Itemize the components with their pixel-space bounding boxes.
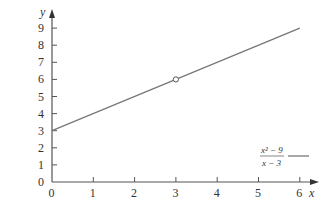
y-tick-label: 2 [38, 141, 44, 155]
legend-numerator: x² − 9 [260, 145, 283, 155]
x-tick-label: 0 [49, 186, 55, 200]
y-tick-label: 8 [38, 38, 44, 52]
x-tick-label: 6 [296, 186, 302, 200]
y-tick-label: 4 [38, 107, 44, 121]
function-plot: 0123456789 0123456 y x x² − 9 x − 3 [0, 0, 329, 213]
y-axis-label: y [39, 5, 46, 19]
y-tick-label: 7 [38, 55, 44, 69]
x-tick-label: 4 [214, 186, 220, 200]
legend: x² − 9 x − 3 [260, 145, 309, 168]
y-axis-arrow-icon [49, 9, 55, 18]
y-tick-label: 0 [38, 175, 44, 189]
y-ticks: 0123456789 [38, 21, 57, 189]
open-circle-hole-marker [173, 77, 178, 82]
x-axis-arrow-icon [310, 179, 319, 185]
x-axis-label: x [308, 186, 315, 200]
y-tick-label: 9 [38, 21, 44, 35]
x-ticks: 0123456 [49, 177, 303, 200]
y-tick-label: 5 [38, 90, 44, 104]
x-tick-label: 1 [90, 186, 96, 200]
x-tick-label: 2 [131, 186, 137, 200]
x-tick-label: 5 [255, 186, 261, 200]
legend-denominator: x − 3 [261, 158, 282, 168]
y-tick-label: 6 [38, 72, 44, 86]
y-tick-label: 1 [38, 158, 44, 172]
x-tick-label: 3 [172, 186, 178, 200]
y-tick-label: 3 [38, 124, 44, 138]
